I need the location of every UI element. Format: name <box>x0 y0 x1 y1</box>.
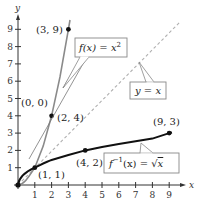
svg-text:2: 2 <box>49 190 55 200</box>
svg-text:8: 8 <box>7 42 13 52</box>
svg-text:7: 7 <box>7 59 13 69</box>
callout-f-inverse: f−1(x) = √x <box>104 143 179 173</box>
svg-text:3: 3 <box>66 190 72 200</box>
svg-text:7: 7 <box>133 190 139 200</box>
y-axis-label: y <box>14 3 21 13</box>
callout-f-text: f(x) = x2 <box>78 41 121 53</box>
label-point-0-0: (0, 0) <box>21 97 48 108</box>
svg-text:5: 5 <box>7 94 13 104</box>
svg-text:4: 4 <box>82 190 88 200</box>
point-1-1 <box>32 165 37 170</box>
svg-text:6: 6 <box>7 76 13 86</box>
svg-text:4: 4 <box>7 111 13 121</box>
svg-text:8: 8 <box>150 190 156 200</box>
point-0-0 <box>15 182 20 187</box>
label-point-3-9: (3, 9) <box>36 24 63 35</box>
svg-text:3: 3 <box>7 128 13 138</box>
point-9-3 <box>167 131 172 136</box>
svg-text:9: 9 <box>7 24 13 34</box>
svg-text:6: 6 <box>116 190 122 200</box>
svg-text:1: 1 <box>7 163 13 173</box>
svg-text:9: 9 <box>166 190 172 200</box>
label-point-9-3: (9, 3) <box>153 116 180 127</box>
label-point-1-1: (1, 1) <box>38 169 65 180</box>
callout-identity-text: y = x <box>134 85 161 96</box>
x-axis-label: x <box>189 180 194 190</box>
label-point-2-4: (2, 4) <box>57 112 84 123</box>
point-4-2 <box>83 148 88 153</box>
chart-canvas: x y 1 2 3 4 5 6 7 8 9 1 2 3 <box>0 0 197 214</box>
svg-text:1: 1 <box>32 190 38 200</box>
svg-text:5: 5 <box>99 190 105 200</box>
label-point-4-2: (4, 2) <box>76 157 103 168</box>
x-tick-labels: 1 2 3 4 5 6 7 8 9 <box>32 190 172 200</box>
y-tick-labels: 1 2 3 4 5 6 7 8 9 <box>7 24 13 172</box>
point-3-9 <box>66 27 71 32</box>
x-axis-arrow-icon <box>180 183 186 187</box>
y-axis-arrow-icon <box>16 14 20 20</box>
svg-text:2: 2 <box>7 145 13 155</box>
